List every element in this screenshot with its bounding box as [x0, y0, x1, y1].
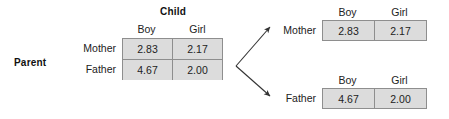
main-cell-father-girl: 2.00 [173, 60, 222, 80]
father-table-row-label: Father [268, 92, 316, 104]
main-column-header-boy: Boy [122, 23, 171, 35]
father-cell-girl: 2.00 [375, 89, 426, 108]
main-cell-father-boy: 4.67 [123, 60, 172, 80]
mother-table-row-label: Mother [268, 24, 316, 36]
arrow-to-father-icon [236, 66, 270, 96]
parent-row-group-label: Parent [14, 57, 62, 69]
main-cell-mother-boy: 2.83 [123, 39, 172, 59]
mother-cell-boy: 2.83 [323, 21, 374, 40]
father-table-column-divider [374, 89, 375, 108]
mother-table-column-divider [374, 21, 375, 40]
mother-table-header-girl: Girl [374, 6, 425, 18]
main-table-row-divider [123, 59, 222, 60]
father-cell-boy: 4.67 [323, 89, 374, 108]
mother-cell-girl: 2.17 [375, 21, 426, 40]
mother-split-table: 2.83 2.17 [322, 20, 427, 41]
parent-child-table-figure: Child Boy Girl Parent Mother Father 2.83… [0, 0, 449, 119]
father-split-table: 4.67 2.00 [322, 88, 427, 109]
main-column-header-girl: Girl [173, 23, 222, 35]
arrow-to-mother-icon [236, 27, 270, 66]
father-table-header-boy: Boy [322, 74, 373, 86]
mother-table-header-boy: Boy [322, 6, 373, 18]
father-table-header-girl: Girl [374, 74, 425, 86]
child-column-group-label: Child [134, 6, 212, 18]
main-contingency-table: 2.83 2.17 4.67 2.00 [122, 38, 223, 80]
main-row-header-mother: Mother [68, 42, 116, 54]
main-cell-mother-girl: 2.17 [173, 39, 222, 59]
main-row-header-father: Father [68, 63, 116, 75]
